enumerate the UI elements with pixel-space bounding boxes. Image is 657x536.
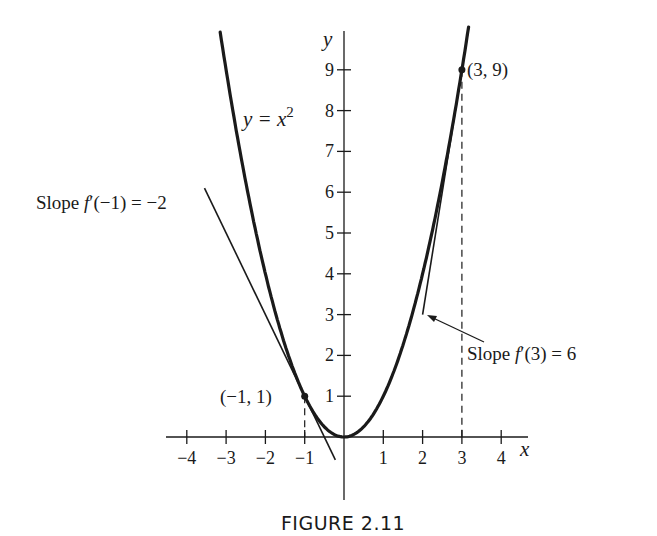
x-tick-label: −3 — [217, 448, 236, 468]
slope-label-left: Slope f′(−1) = −2 — [36, 192, 167, 214]
x-tick-label: −2 — [256, 448, 275, 468]
x-tick-label: −1 — [295, 448, 314, 468]
slope-label-right: Slope f′(3) = 6 — [467, 343, 576, 365]
y-tick-label: 7 — [325, 141, 334, 161]
dashed-guides — [305, 70, 462, 437]
slope-right-rest: ′(3) = 6 — [520, 343, 576, 365]
curve-label-exponent: 2 — [286, 104, 294, 120]
x-axis-label: x — [519, 437, 530, 461]
y-tick-label: 1 — [325, 386, 334, 406]
x-tick-label: 2 — [418, 448, 427, 468]
y-tick-label: 4 — [325, 264, 334, 284]
slope-right-prefix: Slope — [467, 343, 515, 364]
slope-left-prefix: Slope — [36, 192, 84, 213]
y-tick-label: 6 — [325, 182, 334, 202]
x-tick-label: 4 — [497, 448, 506, 468]
y-tick-label: 2 — [325, 345, 334, 365]
x-tick-label: 1 — [379, 448, 388, 468]
tangent-line-left — [204, 188, 335, 460]
x-tick-label: −4 — [177, 448, 196, 468]
x-tick-label: 3 — [457, 448, 466, 468]
point-3-9 — [458, 66, 465, 73]
curve-label: y = x2 — [241, 104, 294, 131]
y-tick-label: 8 — [325, 101, 334, 121]
point-label-left: (−1, 1) — [220, 386, 272, 408]
slope-arrow-line — [431, 317, 484, 342]
figure-caption: FIGURE 2.11 — [281, 512, 405, 534]
y-tick-label: 5 — [325, 223, 334, 243]
y-tick-label: 9 — [325, 60, 334, 80]
point-label-right: (3, 9) — [467, 59, 508, 81]
arrowhead-icon — [427, 315, 437, 322]
axes: −4−3−2−11234 123456789 x y — [166, 27, 530, 500]
y-tick-label: 3 — [325, 305, 334, 325]
y-axis-ticks: 123456789 — [325, 60, 351, 406]
curve-label-text: y = x — [241, 107, 287, 131]
figure-2-11: −4−3−2−11234 123456789 x y (−1, 1) (3, 9… — [0, 0, 657, 536]
point-minus1-1 — [301, 393, 308, 400]
y-axis-label: y — [321, 27, 333, 51]
slope-left-rest: ′(−1) = −2 — [89, 192, 166, 214]
